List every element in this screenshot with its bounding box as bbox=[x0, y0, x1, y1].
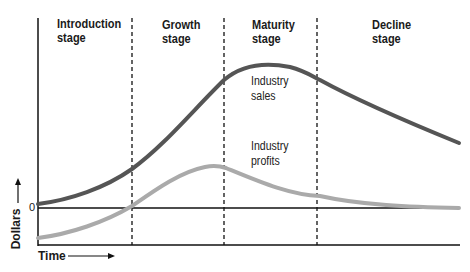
time-arrow-head bbox=[108, 253, 115, 259]
stage-label-growth: Growth stage bbox=[162, 18, 201, 46]
industry-profits-curve bbox=[38, 166, 459, 238]
stage-subtitle: stage bbox=[57, 31, 121, 45]
industry-profits-label: Industry profits bbox=[251, 139, 289, 169]
stage-label-decline: Decline stage bbox=[372, 18, 411, 46]
industry-sales-label: Industry sales bbox=[251, 74, 289, 104]
zero-tick-label: 0 bbox=[29, 201, 35, 213]
stage-title: Maturity bbox=[252, 18, 295, 32]
stage-subtitle: stage bbox=[372, 32, 411, 46]
dollars-arrow-head bbox=[15, 178, 21, 185]
stage-title: Introduction bbox=[57, 17, 121, 31]
curve-label-line: profits bbox=[251, 154, 289, 169]
curve-label-line: Industry bbox=[251, 74, 289, 89]
stage-label-introduction: Introduction stage bbox=[57, 17, 121, 45]
stage-subtitle: stage bbox=[162, 32, 201, 46]
curve-label-line: Industry bbox=[251, 139, 289, 154]
curve-label-line: sales bbox=[251, 89, 289, 104]
x-axis-label: Time bbox=[38, 249, 66, 263]
stage-subtitle: stage bbox=[252, 32, 295, 46]
stage-title: Growth bbox=[162, 18, 201, 32]
stage-title: Decline bbox=[372, 18, 411, 32]
industry-sales-curve bbox=[38, 65, 459, 204]
stage-label-maturity: Maturity stage bbox=[252, 18, 295, 46]
y-axis-label: Dollars bbox=[9, 204, 23, 254]
